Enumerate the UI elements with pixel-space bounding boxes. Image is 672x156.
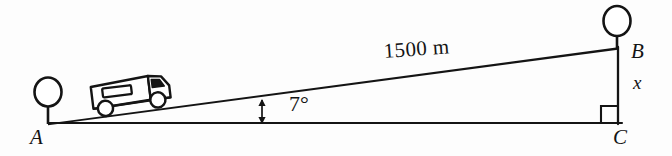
vertex-label-b: B (631, 41, 644, 62)
vertex-label-a: A (30, 127, 43, 148)
vertex-label-c: C (613, 127, 627, 148)
incline-angle-label: 7° (289, 93, 309, 115)
angle-gap-arrow-icon (258, 99, 265, 124)
hypotenuse-length-label: 1500 m (383, 36, 450, 62)
truck-icon (90, 74, 172, 118)
pole-marker-a-icon (35, 78, 62, 125)
diagram-canvas (0, 0, 672, 156)
incline-triangle-diagram: A B C x 1500 m 7° (0, 0, 672, 156)
height-label-x: x (633, 73, 641, 92)
right-angle-marker-icon (601, 106, 618, 123)
pole-marker-b-icon (604, 6, 631, 49)
